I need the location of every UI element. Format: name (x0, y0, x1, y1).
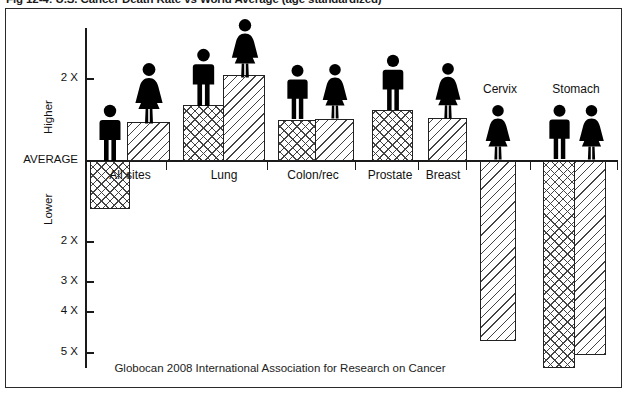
y-tick-4x-lower (85, 311, 94, 313)
y-label-5x-lower: 5 X (18, 345, 78, 357)
chart-plot-area: 2 X Higher AVERAGE Lower 2 X 3 X 4 X 5 X (0, 0, 627, 396)
bar-lung-female (223, 75, 265, 161)
source-credit: Globocan 2008 International Association … (0, 362, 560, 374)
y-tick-5x-lower (85, 352, 94, 354)
female-figure-icon (228, 18, 262, 78)
female-figure-icon (432, 62, 464, 119)
male-figure-icon (283, 64, 312, 120)
category-label-prostate: Prostate (361, 168, 419, 182)
bar-stomach-female (574, 161, 606, 355)
bar-prostate-male (372, 110, 413, 161)
bar-colon-male (278, 120, 316, 161)
y-tick-3x-lower (85, 281, 94, 283)
bar-breast-female (428, 118, 467, 161)
y-label-3x-lower: 3 X (18, 274, 78, 286)
x-tick-sep-2 (267, 161, 268, 170)
male-figure-icon (95, 104, 125, 162)
category-label-cervix: Cervix (470, 82, 530, 96)
bar-stomach-male (543, 161, 575, 368)
x-tick-sep-3 (355, 161, 356, 170)
female-figure-icon (482, 104, 514, 160)
y-tick-2x-higher (85, 78, 94, 80)
y-label-average: AVERAGE (0, 153, 78, 165)
bar-lung-male (183, 105, 224, 161)
y-label-4x-lower: 4 X (18, 304, 78, 316)
y-tick-2x-lower (85, 241, 94, 243)
category-label-lung: Lung (184, 168, 264, 182)
male-figure-icon (378, 54, 408, 111)
category-label-colon: Colon/rec (272, 168, 354, 182)
category-label-stomach: Stomach (537, 82, 615, 96)
x-tick-sep-6 (530, 161, 531, 170)
x-tick-sep-5 (466, 161, 467, 170)
bar-colon-female (315, 119, 354, 161)
category-label-breast: Breast (420, 168, 466, 182)
y-label-higher: Higher (42, 100, 54, 134)
category-label-all-sites: All sites (90, 168, 170, 182)
bar-all-sites-female (127, 122, 170, 161)
y-label-lower: Lower (42, 194, 54, 225)
male-figure-icon (188, 48, 219, 107)
y-label-2x-lower: 2 X (18, 234, 78, 246)
bar-cervix-female (480, 161, 516, 341)
female-figure-icon (132, 62, 166, 124)
female-figure-icon (576, 104, 607, 160)
male-figure-icon (545, 104, 574, 160)
x-tick-sep-7 (617, 161, 618, 170)
female-figure-icon (319, 63, 351, 119)
y-label-2x-higher: 2 X (18, 71, 78, 83)
